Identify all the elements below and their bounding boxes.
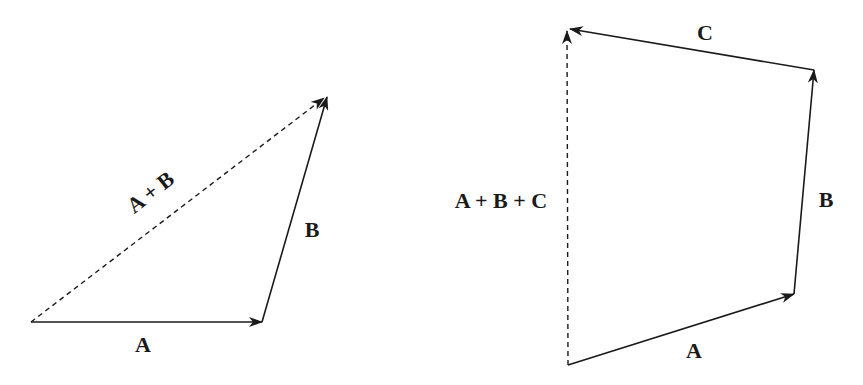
vector-c-label: C <box>697 20 713 45</box>
three-vector-diagram: A B C A + B + C <box>455 20 834 365</box>
vector-b-arrow-icon <box>794 70 814 294</box>
vector-b-label: B <box>305 217 320 242</box>
vector-addition-figure: A B A + B A B C A + B + C <box>0 0 863 385</box>
vector-a-arrow-icon <box>568 294 794 365</box>
two-vector-diagram: A B A + B <box>31 97 327 357</box>
vector-a-label: A <box>686 338 702 363</box>
vector-sum-label: A + B + C <box>455 188 547 213</box>
vector-b-label: B <box>819 187 834 212</box>
vector-sum-label: A + B <box>122 166 179 218</box>
vector-a-label: A <box>135 332 151 357</box>
vector-a-plus-b-arrow-icon <box>31 98 324 322</box>
vector-b-arrow-icon <box>262 97 327 322</box>
vector-c-arrow-icon <box>570 29 814 70</box>
vector-a-plus-b-plus-c-arrow-icon <box>567 31 568 365</box>
